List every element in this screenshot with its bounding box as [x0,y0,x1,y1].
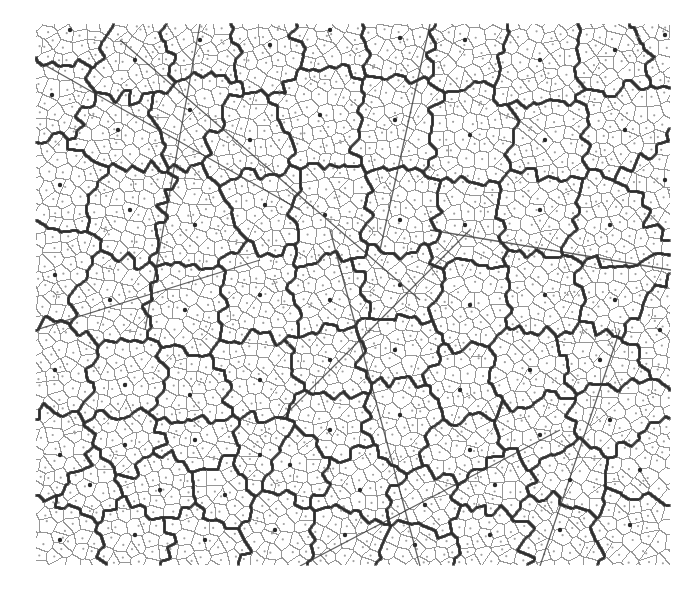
voronoi-diagram [0,0,698,594]
